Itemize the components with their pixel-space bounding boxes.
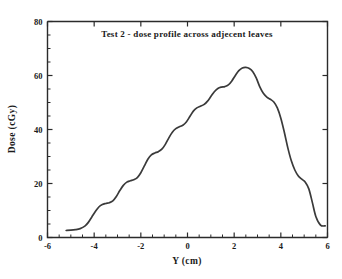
y-tick-label: 0 [38,233,42,243]
x-tick-label: 4 [279,241,284,251]
x-tick-label: 0 [185,241,189,251]
chart-figure: -6-4-20246 020406080 Test 2 - dose profi… [0,0,342,279]
x-tick-label: -4 [91,241,99,251]
x-tick-label: -6 [44,241,51,251]
x-axis-title: Y (cm) [172,256,202,267]
y-tick-label: 20 [34,179,43,189]
y-tick-label: 60 [34,71,43,81]
x-tick-label: 2 [232,241,236,251]
y-axis-title: Dose (cGy) [7,105,18,154]
x-tick-label: 6 [325,241,329,251]
y-tick-label: 40 [34,125,43,135]
chart-title: Test 2 - dose profile across adjecent le… [101,29,273,39]
y-tick-label: 80 [34,17,43,27]
x-tick-label: -2 [137,241,144,251]
dose-profile-chart: -6-4-20246 020406080 Test 2 - dose profi… [0,0,342,279]
